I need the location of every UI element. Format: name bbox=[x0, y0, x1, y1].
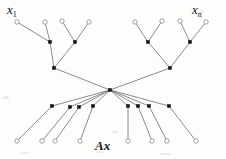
graph-edge bbox=[54, 68, 110, 90]
internal-node-tier5 bbox=[137, 105, 140, 108]
output-node bbox=[15, 139, 19, 143]
label-input-first: x1 bbox=[7, 3, 17, 19]
graph-edge bbox=[148, 21, 162, 42]
graph-edge bbox=[110, 90, 149, 106]
output-node bbox=[53, 139, 57, 143]
input-node bbox=[43, 20, 47, 24]
hub-node bbox=[109, 89, 112, 92]
figure-computation-graph: x1 xn Ax bbox=[0, 0, 226, 159]
input-node bbox=[178, 19, 182, 23]
graph-edge bbox=[62, 21, 75, 42]
input-node bbox=[204, 20, 208, 24]
input-node bbox=[133, 20, 137, 24]
internal-node-tier5 bbox=[51, 105, 54, 108]
graph-edge bbox=[54, 42, 75, 68]
label-output: Ax bbox=[95, 139, 110, 152]
output-node bbox=[78, 139, 82, 143]
output-node bbox=[40, 139, 44, 143]
internal-node-tier2 bbox=[74, 41, 77, 44]
internal-node-tier5 bbox=[92, 105, 95, 108]
graph-edge bbox=[190, 22, 206, 42]
graph-edge bbox=[75, 22, 89, 42]
internal-node-tier5 bbox=[69, 106, 72, 109]
graph-edge bbox=[149, 106, 167, 141]
internal-node-tier3 bbox=[169, 67, 172, 70]
graph-edge bbox=[80, 106, 93, 141]
internal-node-tier2 bbox=[49, 41, 52, 44]
node-layer bbox=[15, 19, 208, 143]
label-input-first-subscript: 1 bbox=[13, 10, 17, 19]
label-input-last-subscript: n bbox=[198, 10, 202, 19]
output-node bbox=[165, 139, 169, 143]
internal-node-tier2 bbox=[189, 41, 192, 44]
graph-edge bbox=[135, 22, 148, 42]
graph-edge bbox=[170, 42, 190, 68]
graph-edge bbox=[169, 106, 196, 141]
internal-node-tier5 bbox=[168, 105, 171, 108]
graph-edge bbox=[50, 42, 54, 68]
graph-canvas bbox=[0, 0, 226, 159]
input-node bbox=[15, 20, 19, 24]
graph-edge bbox=[148, 42, 170, 68]
label-input-last: xn bbox=[192, 3, 202, 19]
input-node bbox=[160, 19, 164, 23]
graph-edge bbox=[70, 90, 110, 107]
output-node bbox=[194, 139, 198, 143]
graph-edge bbox=[110, 68, 170, 90]
input-node bbox=[87, 20, 91, 24]
internal-node-tier5 bbox=[78, 106, 81, 109]
internal-node-tier2 bbox=[147, 41, 150, 44]
output-node bbox=[126, 139, 130, 143]
internal-node-tier5 bbox=[127, 105, 130, 108]
output-node bbox=[150, 139, 154, 143]
internal-node-tier3 bbox=[53, 67, 56, 70]
paper-fleck bbox=[112, 131, 119, 133]
edge-layer bbox=[17, 21, 206, 141]
paper-fleck bbox=[160, 153, 171, 155]
internal-node-tier5 bbox=[148, 105, 151, 108]
graph-edge bbox=[110, 90, 138, 106]
graph-edge bbox=[180, 21, 190, 42]
graph-edge bbox=[138, 106, 152, 141]
paper-fleck bbox=[3, 96, 9, 99]
graph-edge bbox=[55, 107, 79, 141]
graph-edge bbox=[17, 22, 50, 42]
input-node bbox=[60, 19, 64, 23]
paper-fleck bbox=[20, 152, 29, 154]
